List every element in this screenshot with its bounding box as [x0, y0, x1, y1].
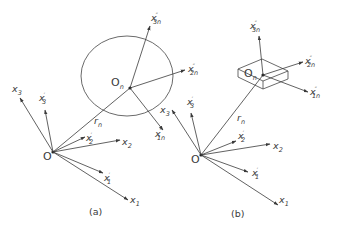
axis-x1-prime	[201, 155, 248, 172]
axis-x3n-double-prime	[130, 26, 150, 88]
origin-label: O	[191, 153, 200, 166]
axis-x1	[53, 152, 128, 200]
caption-a: (a)	[89, 206, 102, 217]
label-x1n-double-prime: x″1n	[154, 127, 165, 142]
label-x2: x2	[272, 140, 283, 154]
label-x2: x2	[121, 136, 132, 150]
label-x3: x3	[159, 104, 170, 118]
body-origin-label: On	[111, 76, 124, 91]
label-x2n-double-prime: x″2n	[304, 54, 315, 69]
position-vector-label: rn	[94, 115, 102, 129]
label-x1: x1	[129, 194, 140, 208]
label-x2-prime: x′2	[237, 129, 245, 144]
label-x1-prime: x′1	[251, 166, 259, 181]
axis-x3	[172, 110, 201, 155]
coordinate-frames-diagram: O On rn x3 x′3 x′2 x2 x′1 x1 x″3n x″2n x…	[0, 0, 337, 230]
axis-x2	[201, 144, 270, 155]
caption-b: (b)	[231, 208, 244, 219]
label-x1: x1	[278, 194, 289, 208]
axis-x1-prime	[53, 152, 103, 173]
label-x1n-double-prime: x″1n	[309, 85, 320, 100]
label-x2n-double-prime: x″2n	[187, 62, 198, 77]
label-x1-prime: x′1	[103, 171, 111, 186]
label-x3n-double-prime: x″3n	[249, 19, 260, 34]
axis-x1	[201, 155, 278, 205]
panel-b: O On rn x3 x′3 x′2 x2 x′1 x1 x″3n x″2n x…	[159, 19, 320, 219]
body-origin-label: On	[244, 67, 257, 82]
label-x3n-double-prime: x″3n	[150, 11, 161, 26]
label-x2-prime: x′2	[85, 131, 93, 146]
axis-x1n-double-prime	[263, 75, 308, 92]
label-x3-prime: x′3	[186, 95, 194, 110]
label-x3: x3	[11, 83, 22, 97]
axis-x2-prime	[53, 137, 85, 152]
label-x3-prime: x′3	[38, 91, 46, 106]
axis-x1n-double-prime	[130, 88, 163, 130]
axis-x3n-double-prime	[259, 36, 263, 75]
axis-x2n-double-prime	[130, 70, 185, 88]
origin-label: O	[43, 150, 52, 163]
position-vector-label: rn	[237, 112, 245, 126]
panel-a: O On rn x3 x′3 x′2 x2 x′1 x1 x″3n x″2n x…	[11, 11, 198, 217]
axis-x3-prime	[191, 113, 201, 155]
